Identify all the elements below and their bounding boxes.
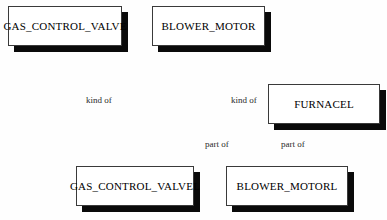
entity-box-gas-control-valvel[interactable]: GAS_CONTROL_VALVEL xyxy=(76,166,194,206)
entity-box-gas-control-valve[interactable]: GAS_CONTROL_VALVE xyxy=(8,6,122,46)
relation-label-kind-of-right: kind of xyxy=(231,95,257,105)
entity-box-blower-motor[interactable]: BLOWER_MOTOR xyxy=(152,6,265,46)
entity-label: GAS_CONTROL_VALVE xyxy=(3,20,126,32)
diagram-canvas: GAS_CONTROL_VALVE BLOWER_MOTOR FURNACEL … xyxy=(0,0,387,220)
entity-label: FURNACEL xyxy=(294,98,354,110)
relation-label-part-of-left: part of xyxy=(205,139,229,149)
entity-box-furnacel[interactable]: FURNACEL xyxy=(268,84,380,124)
entity-label: BLOWER_MOTORL xyxy=(237,180,338,192)
relation-label-part-of-right: part of xyxy=(281,139,305,149)
relation-label-kind-of-left: kind of xyxy=(86,95,112,105)
entity-label: GAS_CONTROL_VALVEL xyxy=(70,180,200,192)
entity-box-blower-motorl[interactable]: BLOWER_MOTORL xyxy=(226,166,348,206)
entity-label: BLOWER_MOTOR xyxy=(162,20,256,32)
